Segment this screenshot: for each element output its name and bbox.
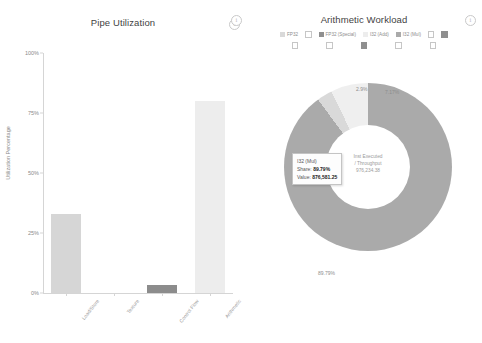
slice-label-i32-mul: 89.79% (318, 270, 335, 276)
y-tick-label: 100% (25, 50, 39, 56)
chart-tooltip: I32 (Mul) Share: 89.79% Value: 876,581.2… (292, 153, 342, 185)
legend-item-i32-mul[interactable]: I32 (Mul) (396, 32, 421, 37)
legend-label: I32 (Mul) (403, 32, 421, 37)
legend-checkbox-i32-mul[interactable] (428, 31, 435, 38)
legend-item-fp32-special[interactable]: FP32 (Special) (319, 32, 356, 37)
pipe-utilization-panel: Pipe Utilization i 0% 25% 50% 75% 100% (0, 0, 246, 343)
info-icon[interactable]: i (231, 15, 242, 26)
bar-load-store[interactable] (51, 214, 81, 293)
legend-toggle-3[interactable] (361, 42, 368, 49)
tooltip-share-value: 89.79% (313, 166, 330, 172)
arithmetic-workload-panel: Arithmetic Workload i i FP32 FP32 (Speci… (246, 0, 482, 343)
x-tick-mark (66, 293, 67, 296)
legend-toggle-2[interactable] (326, 42, 333, 49)
x-tick-mark (114, 293, 115, 296)
arithmetic-workload-title: Arithmetic Workload (246, 14, 482, 25)
legend-checkbox-fp32[interactable] (305, 31, 312, 38)
tooltip-share: Share: 89.79% (297, 165, 337, 173)
x-axis-label-texture: Texture (125, 298, 140, 315)
legend-swatch-icon (319, 32, 324, 37)
legend-item-fp32[interactable]: FP32 (280, 32, 298, 37)
legend-label: I32 (Add) (370, 32, 389, 37)
tooltip-value-label: Value: (297, 174, 311, 180)
x-tick-mark (162, 293, 163, 296)
legend-swatch-icon (363, 32, 368, 37)
legend-label: FP32 (287, 32, 298, 37)
legend-toggle-5[interactable] (430, 42, 437, 49)
legend-toggle-row (246, 42, 482, 49)
tooltip-value: Value: 876,581.25 (297, 173, 337, 181)
tooltip-title: I32 (Mul) (297, 157, 337, 165)
x-axis (43, 293, 233, 294)
legend-item-i32-add[interactable]: I32 (Add) (363, 32, 389, 37)
info-icon[interactable]: i (465, 15, 476, 26)
legend-label: FP32 (Special) (326, 32, 356, 37)
y-axis-title: Utilization Percentage (5, 126, 11, 180)
legend: FP32 FP32 (Special) I32 (Add) I32 (Mul) (246, 31, 482, 38)
bar-arithmetic[interactable] (195, 101, 225, 293)
arithmetic-workload-donut: Inst Executed / Throughput 976,234.38 2.… (268, 63, 464, 298)
legend-checkbox-extra[interactable] (441, 31, 448, 38)
y-tick-label: 0% (31, 290, 39, 296)
tooltip-share-label: Share: (297, 166, 312, 172)
legend-toggle-4[interactable] (395, 42, 402, 49)
bar-control-flow[interactable] (147, 285, 177, 293)
x-tick-mark (210, 293, 211, 296)
y-tick-label: 75% (28, 110, 39, 116)
y-tick-label: 25% (28, 230, 39, 236)
x-axis-label-load-store: Load/Store (80, 298, 100, 321)
legend-swatch-icon (280, 32, 285, 37)
x-axis-label-arithmetic: Arithmetic (224, 298, 242, 319)
pipe-utilization-plot: 0% 25% 50% 75% 100% Load/Store Texture (43, 53, 233, 293)
x-axis-label-control-flow: Control Flow (178, 298, 200, 324)
legend-swatch-icon (396, 32, 401, 37)
slice-label-fp32-special: 2.9% (356, 86, 367, 92)
pipe-utilization-title: Pipe Utilization (0, 17, 246, 28)
legend-toggle-1[interactable] (292, 42, 299, 49)
slice-label-i32-add: 7.17% (385, 89, 399, 95)
y-tick-label: 50% (28, 170, 39, 176)
tooltip-value-value: 876,581.25 (312, 174, 337, 180)
y-axis (43, 53, 44, 293)
